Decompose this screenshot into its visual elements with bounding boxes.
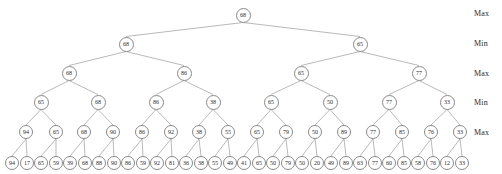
level-role-label: Max: [474, 69, 489, 78]
level-role-label: Min: [474, 98, 488, 107]
level-role-label: Max: [474, 128, 489, 137]
level-role-label: Max: [474, 9, 489, 18]
level-label-layer: MaxMinMaxMinMax: [0, 0, 502, 174]
minimax-game-tree-figure: 6868656886657765688638655077339465689086…: [0, 0, 502, 174]
level-role-label: Min: [474, 39, 488, 48]
